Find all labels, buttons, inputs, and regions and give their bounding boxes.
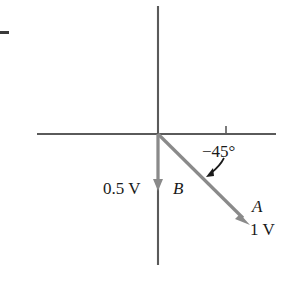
phasor-diagram: 0.5 V B −45° A 1 V xyxy=(0,0,295,282)
diagram-canvas xyxy=(0,0,295,282)
vector-b-arrowhead xyxy=(153,179,163,191)
vector-b-name-label: B xyxy=(173,180,183,197)
vector-b-magnitude-label: 0.5 V xyxy=(103,180,140,197)
angle-callout-arrowhead xyxy=(206,168,214,177)
vector-a-magnitude-label: 1 V xyxy=(250,221,275,238)
edge-dash-mark xyxy=(0,31,9,34)
angle-label: −45° xyxy=(202,143,235,160)
vector-a-name-label: A xyxy=(252,198,262,215)
